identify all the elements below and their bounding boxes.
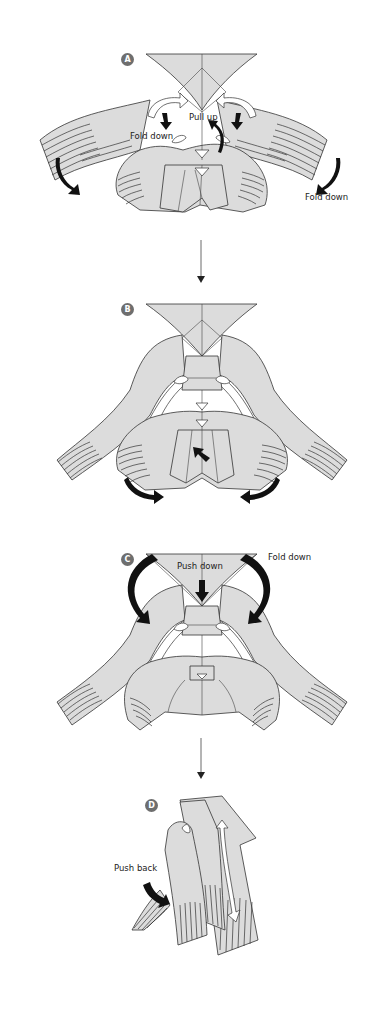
label-fold-down: Fold down (268, 552, 311, 562)
step-a: A (0, 0, 367, 240)
label-push-down: Push down (177, 561, 223, 571)
label-push-back: Push back (114, 863, 157, 873)
step-d: D Push back (0, 790, 367, 1018)
arrow-down-c-to-d (0, 736, 367, 786)
step-d-figure (0, 790, 367, 1018)
label-pull-up: Pull up (189, 112, 218, 122)
step-b-figure (0, 290, 367, 505)
step-b: B (0, 290, 367, 505)
label-fold-down-left: Fold down (130, 131, 173, 141)
black-arrow-left-inner (160, 113, 172, 130)
arrow-down-a-to-b (0, 238, 367, 288)
step-a-figure (0, 0, 367, 240)
black-arrow-right-outer (316, 158, 340, 195)
white-arrow-left (148, 93, 188, 118)
label-fold-down-right: Fold down (305, 192, 348, 202)
step-c: C (0, 540, 367, 740)
